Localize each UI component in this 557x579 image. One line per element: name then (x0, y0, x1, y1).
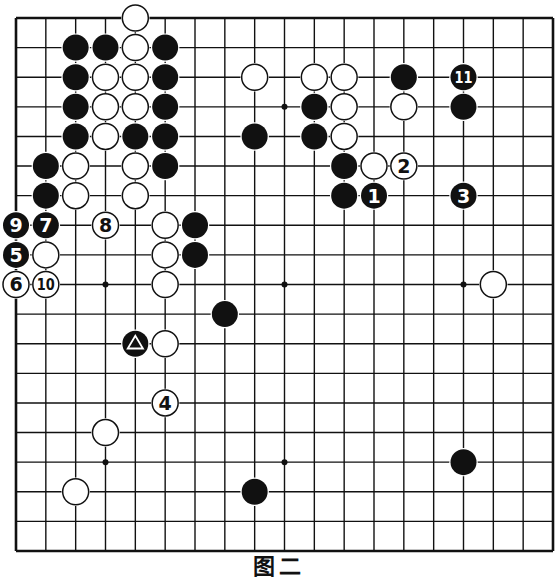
move-number-label: 6 (9, 273, 22, 295)
black-stone (61, 93, 89, 121)
white-stone (330, 122, 358, 150)
black-stone (151, 122, 179, 150)
white-stone: 4 (151, 389, 179, 417)
white-stone (91, 93, 119, 121)
white-stone (121, 33, 149, 61)
black-stone: 9 (2, 211, 30, 239)
move-number-label: 5 (9, 244, 22, 266)
black-stone: 3 (449, 181, 477, 209)
black-stone (300, 93, 328, 121)
black-stone (300, 122, 328, 150)
white-stone (61, 181, 89, 209)
black-stone (32, 181, 60, 209)
figure-caption: 图二 (0, 556, 557, 578)
white-stone (479, 270, 507, 298)
black-stone (390, 63, 418, 91)
black-stone (240, 122, 268, 150)
move-number-label: 10 (37, 276, 55, 294)
move-number-label: 11 (455, 69, 473, 87)
go-board: 1121397856104 (0, 0, 557, 556)
black-stone (211, 300, 239, 328)
black-stone (91, 33, 119, 61)
white-stone (91, 122, 119, 150)
white-stone (240, 63, 268, 91)
black-stone: 5 (2, 241, 30, 269)
white-stone: 8 (91, 211, 119, 239)
black-stone (151, 93, 179, 121)
white-stone (91, 418, 119, 446)
black-stone (240, 478, 268, 506)
black-stone (181, 211, 209, 239)
white-stone (330, 93, 358, 121)
white-stone: 6 (2, 270, 30, 298)
white-stone (300, 63, 328, 91)
star-point (282, 282, 288, 288)
black-stone: 7 (32, 211, 60, 239)
white-stone: 10 (32, 270, 60, 298)
white-stone (91, 63, 119, 91)
move-number-label: 4 (159, 392, 172, 414)
black-stone: 1 (360, 181, 388, 209)
black-stone (121, 330, 149, 358)
white-stone (121, 63, 149, 91)
move-number-label: 2 (397, 155, 410, 177)
black-stone (449, 448, 477, 476)
black-stone (330, 152, 358, 180)
white-stone: 2 (390, 152, 418, 180)
move-number-label: 8 (99, 214, 112, 236)
white-stone (32, 241, 60, 269)
black-stone (61, 122, 89, 150)
white-stone (121, 4, 149, 32)
star-point (103, 459, 109, 465)
white-stone (61, 152, 89, 180)
star-point (461, 282, 467, 288)
white-stone (61, 478, 89, 506)
black-stone (151, 63, 179, 91)
black-stone: 11 (449, 63, 477, 91)
move-number-label: 7 (39, 214, 52, 236)
white-stone (121, 93, 149, 121)
white-stone (151, 270, 179, 298)
move-number-label: 3 (457, 185, 470, 207)
star-point (282, 104, 288, 110)
white-stone (151, 241, 179, 269)
black-stone (330, 181, 358, 209)
white-stone (121, 181, 149, 209)
black-stone (151, 152, 179, 180)
move-number-label: 1 (367, 185, 380, 207)
black-stone (449, 93, 477, 121)
black-stone (61, 63, 89, 91)
black-stone (121, 122, 149, 150)
black-stone (61, 33, 89, 61)
white-stone (151, 330, 179, 358)
white-stone (121, 152, 149, 180)
white-stone (330, 63, 358, 91)
black-stone (32, 152, 60, 180)
star-point (282, 459, 288, 465)
black-stone (151, 33, 179, 61)
black-stone (181, 241, 209, 269)
star-point (103, 282, 109, 288)
white-stone (360, 152, 388, 180)
move-number-label: 9 (9, 214, 22, 236)
white-stone (151, 211, 179, 239)
white-stone (390, 93, 418, 121)
